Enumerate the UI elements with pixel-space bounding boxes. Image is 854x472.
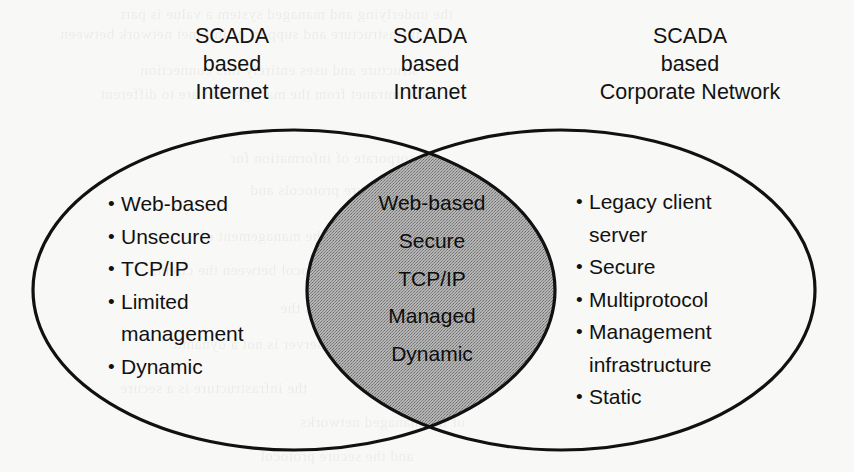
list-item-label: Management infrastructure	[589, 316, 791, 381]
bullet-icon: •	[108, 351, 121, 384]
bullet-icon: •	[576, 284, 589, 317]
list-item-label: Web-based	[378, 184, 485, 222]
list-item: • TCP/IP	[108, 253, 318, 286]
list-item-label: Unsecure	[121, 221, 318, 254]
bullet-icon: •	[108, 221, 121, 254]
list-item: • Legacy client server	[576, 186, 791, 251]
list-item: • Secure	[576, 251, 791, 284]
list-item: • Unsecure	[108, 221, 318, 254]
list-item-label: Secure	[589, 251, 791, 284]
list-item-label: Static	[589, 381, 791, 414]
bullet-icon: •	[576, 251, 589, 284]
list-item-label: Dynamic	[378, 335, 485, 373]
intersection-item-list: Web-based Secure TCP/IP Managed Dynamic	[378, 184, 485, 373]
list-item: • Management infrastructure	[576, 316, 791, 381]
list-item: • Dynamic	[108, 351, 318, 384]
list-item: • Static	[576, 381, 791, 414]
list-item: • Web-based	[108, 188, 318, 221]
list-item-label: Managed	[378, 297, 485, 335]
list-item-label: Dynamic	[121, 351, 318, 384]
list-item-label: Legacy client server	[589, 186, 791, 251]
bullet-icon: •	[108, 188, 121, 221]
left-set-item-list: • Web-based • Unsecure • TCP/IP • Limite…	[108, 188, 318, 383]
bullet-icon: •	[108, 253, 121, 286]
bullet-icon: •	[576, 316, 589, 349]
list-item: • Multiprotocol	[576, 284, 791, 317]
list-item-label: Web-based	[121, 188, 318, 221]
right-set-item-list: • Legacy client server • Secure • Multip…	[576, 186, 791, 414]
venn-diagram-page: the underlying and managed system a valu…	[0, 0, 854, 472]
bullet-icon: •	[576, 381, 589, 414]
list-item-label: TCP/IP	[121, 253, 318, 286]
list-item: • Limited management	[108, 286, 318, 351]
list-item-label: Multiprotocol	[589, 284, 791, 317]
list-item-label: TCP/IP	[378, 260, 485, 298]
bullet-icon: •	[576, 186, 589, 219]
list-item-label: Limited management	[121, 286, 318, 351]
list-item-label: Secure	[378, 222, 485, 260]
bullet-icon: •	[108, 286, 121, 319]
